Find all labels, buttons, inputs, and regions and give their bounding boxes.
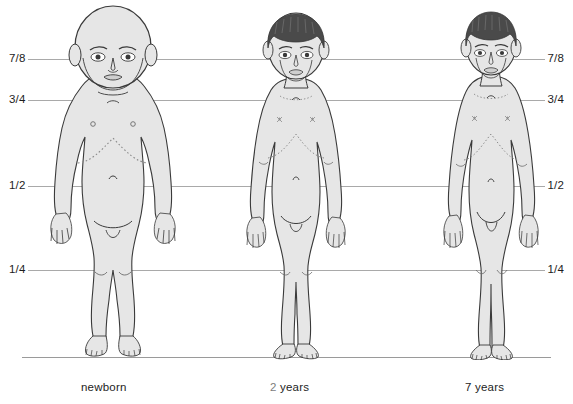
caption-two-years-text: years	[277, 381, 310, 393]
caption-newborn: newborn	[81, 381, 127, 393]
proportions-diagram: 7/8 3/4 1/2 1/4 7/8 3/4 1/2 1/4	[0, 0, 573, 404]
newborn-body-outline	[54, 72, 171, 345]
caption-two-years: 2 years	[270, 381, 309, 393]
figure-two-years	[232, 0, 360, 360]
two-years-body-outline	[250, 78, 341, 353]
figure-seven-years	[430, 0, 552, 360]
figure-newborn	[38, 0, 188, 360]
tick-label-left-1-4: 1/4	[9, 264, 26, 276]
caption-seven-years: 7 years	[465, 381, 504, 393]
tick-label-left-3-4: 3/4	[9, 94, 26, 106]
seven-years-body-outline	[448, 76, 534, 355]
tick-label-left-7-8: 7/8	[9, 53, 26, 65]
caption-two-years-accent: 2	[270, 381, 277, 393]
caption-seven-years-text: 7 years	[465, 381, 504, 393]
caption-newborn-text: newborn	[81, 381, 127, 393]
tick-label-left-1-2: 1/2	[9, 180, 26, 192]
